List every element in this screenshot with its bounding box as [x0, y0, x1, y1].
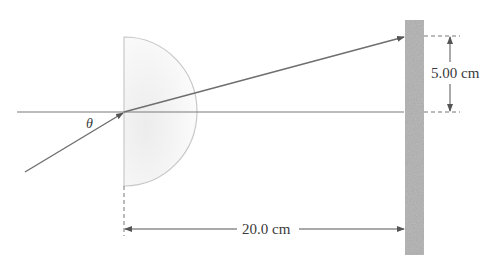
- refraction-diagram: 5.00 cm 20.0 cm θ: [0, 0, 499, 268]
- angle-theta-label: θ: [86, 116, 93, 131]
- screen: [405, 20, 424, 255]
- horizontal-distance-label: 20.0 cm: [242, 221, 291, 237]
- vertical-distance-label: 5.00 cm: [431, 65, 480, 81]
- incident-ray: [25, 113, 123, 172]
